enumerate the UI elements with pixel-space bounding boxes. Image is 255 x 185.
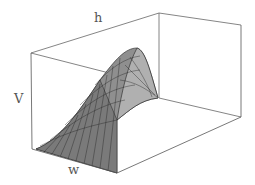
axis-label-v: V	[14, 91, 23, 106]
axis-label-h: h	[94, 10, 102, 25]
surface	[36, 48, 158, 173]
surface-plot	[0, 0, 255, 185]
axis-label-w: w	[68, 162, 79, 177]
